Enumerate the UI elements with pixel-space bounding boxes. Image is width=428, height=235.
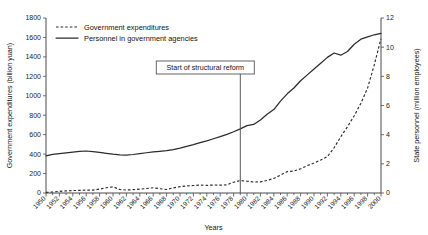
legend-label-expenditures: Government expenditures <box>84 23 169 32</box>
y-ticklabel-right: 0 <box>386 189 390 196</box>
y-ticklabel-left: 1200 <box>25 73 41 80</box>
x-ticklabel: 1950 <box>31 195 47 211</box>
legend-label-personnel: Personnel in government agencies <box>84 34 198 43</box>
y-ticklabel-right: 6 <box>386 102 390 109</box>
x-ticklabel: 1972 <box>179 195 195 211</box>
x-ticklabel: 1962 <box>112 195 128 211</box>
y-ticklabel-left: 200 <box>29 170 41 177</box>
series-line-personnel <box>46 33 381 156</box>
x-ticklabel: 1956 <box>72 195 88 211</box>
x-ticklabel: 1986 <box>273 195 289 211</box>
x-ticklabel: 1990 <box>299 195 315 211</box>
y-ticklabel-left: 800 <box>29 112 41 119</box>
y-axis-title-right: State personnel (million employees) <box>412 48 421 162</box>
x-ticklabel: 1992 <box>313 195 329 211</box>
x-ticklabel: 1952 <box>45 195 61 211</box>
x-ticklabel: 1994 <box>326 195 342 211</box>
chart-canvas: 0200400600800100012001400160018000246810… <box>0 0 428 235</box>
x-ticklabel: 1998 <box>353 195 369 211</box>
chart-figure: 0200400600800100012001400160018000246810… <box>0 0 428 235</box>
y-ticklabel-right: 2 <box>386 160 390 167</box>
y-ticklabel-left: 1000 <box>25 92 41 99</box>
y-axis-title-left: Government expenditures (billion yuan) <box>5 43 14 168</box>
x-ticklabel: 1988 <box>286 195 302 211</box>
y-ticklabel-left: 600 <box>29 131 41 138</box>
x-ticklabel: 1974 <box>192 195 208 211</box>
x-ticklabel: 1964 <box>125 195 141 211</box>
y-ticklabel-left: 1400 <box>25 53 41 60</box>
y-ticklabel-left: 1800 <box>25 14 41 21</box>
x-ticklabel: 1978 <box>219 195 235 211</box>
annotation-label: Start of structural reform <box>167 63 245 72</box>
x-ticklabel: 1984 <box>259 195 275 211</box>
y-ticklabel-right: 4 <box>386 131 390 138</box>
x-ticklabel: 1954 <box>58 195 74 211</box>
y-ticklabel-right: 10 <box>386 44 394 51</box>
x-axis-title: Years <box>204 223 223 232</box>
x-ticklabel: 1970 <box>165 195 181 211</box>
y-ticklabel-left: 1600 <box>25 34 41 41</box>
y-ticklabel-right: 12 <box>386 14 394 21</box>
x-ticklabel: 1982 <box>246 195 262 211</box>
x-ticklabel: 1996 <box>340 195 356 211</box>
x-ticklabel: 1960 <box>98 195 114 211</box>
x-ticklabel: 1980 <box>232 195 248 211</box>
y-ticklabel-right: 8 <box>386 73 390 80</box>
x-ticklabel: 2000 <box>366 195 382 211</box>
x-ticklabel: 1966 <box>139 195 155 211</box>
x-ticklabel: 1958 <box>85 195 101 211</box>
y-ticklabel-left: 400 <box>29 151 41 158</box>
x-ticklabel: 1976 <box>206 195 222 211</box>
x-ticklabel: 1968 <box>152 195 168 211</box>
